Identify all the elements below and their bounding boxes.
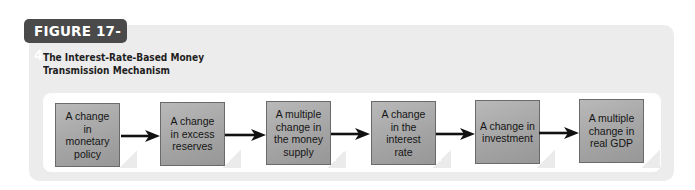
step-label: A multiple change in the money supply	[270, 108, 328, 158]
box-shadow	[119, 150, 137, 168]
figure-title: The Interest-Rate-Based Money Transmissi…	[43, 51, 204, 77]
step-label: A multiple change in real GDP	[584, 112, 640, 150]
step-interest-rate: A change in the interest rate	[371, 101, 436, 165]
arrow-right-icon	[436, 127, 476, 141]
step-excess-reserves: A change in excess reserves	[160, 102, 225, 166]
figure-title-line-2: Transmission Mechanism	[43, 64, 204, 77]
arrow-right-icon	[331, 127, 371, 141]
step-real-gdp: A multiple change in real GDP	[579, 99, 644, 163]
step-investment: A change in investment	[475, 100, 540, 164]
step-label: A change in monetary policy	[65, 110, 111, 160]
arrow-right-icon	[539, 126, 580, 140]
step-label: A change in excess reserves	[167, 115, 219, 153]
arrow-right-icon	[225, 128, 267, 142]
box-shadow	[642, 150, 660, 168]
step-label: A change in investment	[480, 120, 536, 145]
figure-label: FIGURE 17-4	[24, 19, 127, 43]
step-monetary-policy: A change in monetary policy	[55, 103, 120, 167]
step-label: A change in the interest rate	[382, 108, 426, 158]
step-money-supply: A multiple change in the money supply	[266, 101, 331, 165]
box-shadow	[223, 150, 241, 168]
figure-title-line-1: The Interest-Rate-Based Money	[43, 51, 204, 64]
arrow-right-icon	[121, 129, 161, 143]
